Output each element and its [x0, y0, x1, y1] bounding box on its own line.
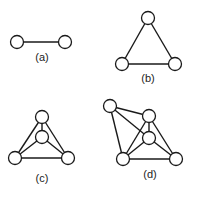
label-a: (a) [35, 51, 48, 63]
vertex-node [117, 153, 130, 166]
edge [122, 18, 148, 64]
label-d: (d) [143, 168, 156, 180]
vertex-node [170, 153, 183, 166]
vertex-node [104, 100, 117, 113]
vertex-node [116, 58, 129, 71]
vertex-node [143, 132, 156, 145]
edge [148, 18, 175, 64]
vertex-node [11, 36, 24, 49]
graph-a [11, 36, 72, 49]
graph-figure: (a) (b) (c) (d) [0, 0, 199, 203]
vertex-node [143, 110, 156, 123]
vertex-node [59, 36, 72, 49]
vertex-node [9, 152, 22, 165]
graph-d [104, 100, 183, 166]
vertex-node [62, 152, 75, 165]
label-c: (c) [36, 172, 49, 184]
vertex-node [36, 131, 49, 144]
edge [110, 106, 123, 159]
vertex-node [142, 12, 155, 25]
vertex-node [36, 111, 49, 124]
graph-b [116, 12, 182, 71]
vertex-node [169, 58, 182, 71]
label-b: (b) [141, 72, 154, 84]
graph-c [9, 111, 75, 165]
